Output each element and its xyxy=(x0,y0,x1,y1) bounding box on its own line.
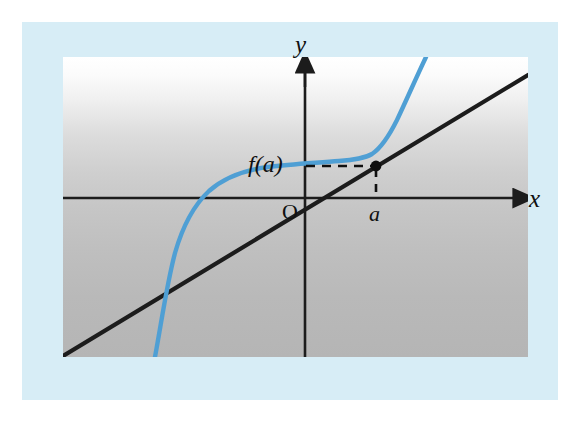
x-axis-label: x xyxy=(529,186,540,211)
tangent-point-marker xyxy=(371,161,382,172)
y-axis-label: y xyxy=(295,32,306,57)
origin-label: O xyxy=(282,201,298,223)
function-value-label: f(a) xyxy=(248,152,283,176)
figure-root: y x f(a) O a xyxy=(0,0,580,422)
point-x-label: a xyxy=(369,203,380,225)
